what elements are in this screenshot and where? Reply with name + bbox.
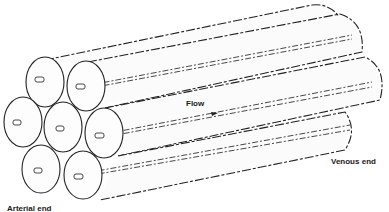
venous-end-label: Venous end — [331, 157, 376, 166]
lumen-5 — [95, 133, 104, 138]
flow-label: Flow — [186, 99, 204, 108]
lumen-4 — [56, 126, 64, 131]
tube-end-5 — [85, 108, 123, 158]
tube-end-3 — [4, 97, 42, 147]
arterial-end-label: Arterial end — [7, 204, 51, 212]
lumen-7 — [74, 174, 83, 179]
lumen-2 — [76, 84, 85, 89]
tube-end-2 — [67, 61, 105, 111]
lumen-3 — [13, 120, 21, 125]
lumen-6 — [34, 168, 42, 173]
capillary-bundle-diagram: Flow Venous end Arterial end — [0, 0, 389, 212]
lumen-1 — [35, 77, 44, 82]
